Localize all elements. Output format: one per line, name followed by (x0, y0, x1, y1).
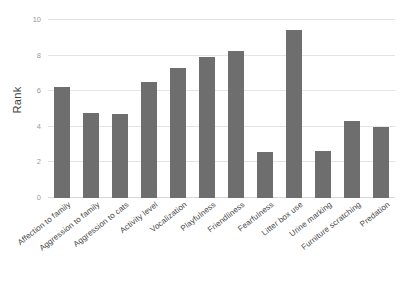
bar (54, 87, 70, 198)
bar (112, 114, 128, 198)
bar (315, 151, 331, 198)
y-axis-tick-label: 6 (37, 86, 41, 95)
bar (257, 152, 273, 198)
bar (286, 30, 302, 198)
bar (199, 57, 215, 198)
x-axis-tick-label: Predation (358, 200, 391, 229)
bar-chart: Rank 0246810 Affection to familyAggressi… (0, 0, 406, 285)
y-axis-title-label: Rank (11, 87, 23, 114)
x-axis-tick-labels: Affection to familyAggression to familyA… (48, 200, 395, 285)
y-axis-tick-label: 2 (37, 157, 41, 166)
bar (228, 51, 244, 198)
plot-area: 0246810 (48, 20, 395, 198)
y-axis-tick-label: 0 (37, 193, 41, 202)
y-axis-tick-label: 10 (33, 15, 41, 24)
y-axis-tick-label: 4 (37, 121, 41, 130)
y-axis-title: Rank (2, 0, 32, 200)
bar (170, 68, 186, 198)
bar (344, 121, 360, 198)
y-axis-tick-label: 8 (37, 50, 41, 59)
bars (48, 20, 395, 198)
bar (141, 82, 157, 198)
bar (373, 127, 389, 198)
bar (83, 113, 99, 198)
